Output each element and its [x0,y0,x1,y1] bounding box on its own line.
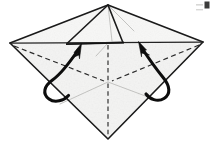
corner-mark-dash-2 [196,9,203,10]
corner-mark-block [205,2,210,9]
origami-diagram-svg [0,0,210,146]
corner-mark-dash-1 [196,4,203,6]
origami-diagram-figure [0,0,210,146]
